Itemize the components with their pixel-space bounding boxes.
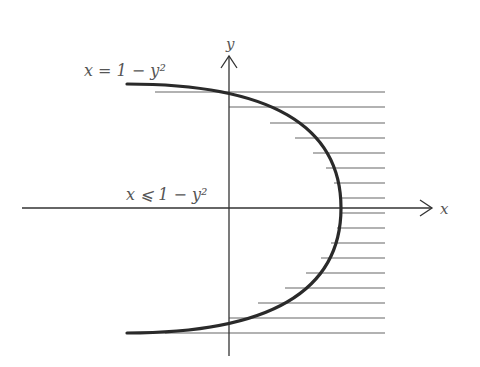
y-axis: [221, 56, 237, 356]
curve-label: x = 1 − y²: [84, 61, 166, 80]
region-diagram: x y x = 1 − y² x ⩽ 1 − y²: [0, 0, 480, 367]
hatch-lines: [155, 92, 385, 333]
x-axis-label: x: [440, 200, 449, 218]
region-label: x ⩽ 1 − y²: [126, 185, 207, 204]
y-axis-label: y: [225, 35, 235, 53]
x-axis: [22, 200, 432, 216]
